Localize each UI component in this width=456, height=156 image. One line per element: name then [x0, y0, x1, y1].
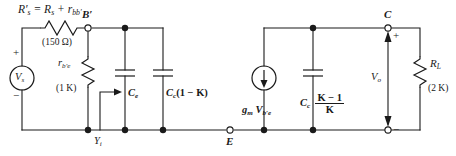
- input-resistor-label: rb′e: [58, 58, 70, 70]
- source-minus-sign: −: [13, 90, 19, 101]
- node-markers: [85, 25, 391, 133]
- cap-ce-label: Ce: [128, 88, 138, 100]
- cap-miller-output-label: Cc K − 1K: [300, 92, 344, 115]
- load-resistor-label: RL: [430, 58, 441, 71]
- input-resistor-value: (1 K): [56, 84, 76, 94]
- load-resistor-symbol: [388, 28, 426, 130]
- input-resistor-symbol: [82, 32, 94, 130]
- source-label: Vs: [15, 72, 24, 84]
- output-plus-sign: +: [393, 30, 399, 41]
- input-admittance-label: Yi: [94, 136, 102, 148]
- series-resistor-label-text: R′s = Rs + rbb′: [18, 3, 82, 15]
- cap-ce-symbol: [115, 28, 135, 130]
- source-plus-sign: +: [13, 47, 19, 58]
- node-b-prime-marker: [85, 25, 91, 31]
- series-resistor-symbol: [40, 21, 88, 35]
- node-b-prime-label: B′: [82, 9, 92, 20]
- output-voltage-arrows: [385, 31, 392, 127]
- node-output-bottom-marker: [385, 127, 391, 133]
- wire-top-left: [22, 28, 40, 66]
- load-resistor-value: (2 K): [428, 84, 448, 94]
- series-resistor-label: R′s = Rs + rbb′: [18, 4, 82, 17]
- output-minus-sign: −: [393, 124, 399, 135]
- input-admittance-arrow: [100, 89, 122, 131]
- node-e-marker: [227, 127, 233, 133]
- current-source-label: gm Vb′e: [242, 105, 271, 117]
- node-c-label: C: [384, 9, 391, 20]
- node-e-label: E: [226, 136, 233, 147]
- node-c-marker: [385, 25, 391, 31]
- schematic-canvas: [0, 0, 456, 156]
- cap-miller-input-label: Cc(1 − K): [166, 88, 208, 100]
- output-voltage-label: Vo: [371, 72, 381, 84]
- circuit-diagram: R′s = Rs + rbb′ (150 Ω) B′ Vs + − rb′e (…: [0, 0, 456, 156]
- cap-miller-input-symbol: [153, 28, 173, 130]
- series-resistor-value: (150 Ω): [42, 38, 72, 48]
